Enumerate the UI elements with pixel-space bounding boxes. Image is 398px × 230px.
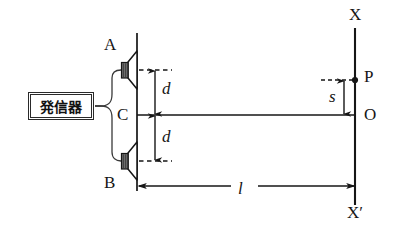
oscillator-label: 発信器 xyxy=(40,96,82,116)
label-screen-top-x: X xyxy=(349,6,361,23)
point-p-marker xyxy=(352,77,358,83)
speaker-b xyxy=(122,142,138,180)
label-d-top: d xyxy=(162,80,171,97)
oscillator-box-inner: 発信器 xyxy=(30,94,92,118)
label-offset-s: s xyxy=(329,88,336,105)
speaker-a xyxy=(122,51,138,89)
label-origin-o: O xyxy=(364,106,376,123)
label-speaker-a: A xyxy=(104,36,116,53)
label-speaker-b: B xyxy=(104,174,115,191)
figure-canvas: 発信器 A B C d d l s X X′ P O xyxy=(0,0,398,230)
speaker-b-magnet xyxy=(122,154,129,170)
label-screen-bottom-x-prime: X′ xyxy=(347,204,363,221)
wire-to-speaker-a xyxy=(95,70,121,106)
label-center-c: C xyxy=(117,106,128,123)
speaker-a-magnet xyxy=(122,63,129,79)
label-d-bottom: d xyxy=(162,128,171,145)
label-distance-l: l xyxy=(238,180,243,197)
label-point-p: P xyxy=(364,68,373,85)
oscillator-box: 発信器 xyxy=(28,92,94,120)
